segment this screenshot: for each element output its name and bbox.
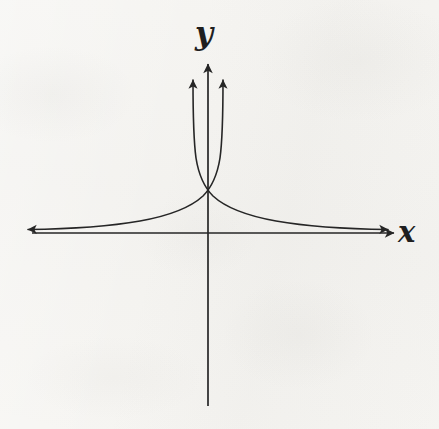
y-axis-label: y: [195, 18, 213, 49]
graph-figure: y x: [0, 0, 439, 429]
x-axis-label: x: [398, 218, 415, 247]
plot-canvas: [0, 0, 439, 429]
